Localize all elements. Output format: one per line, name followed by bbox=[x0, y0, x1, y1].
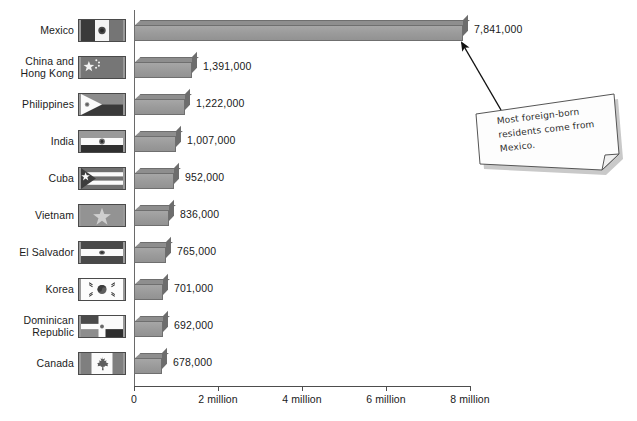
bar-side-face bbox=[185, 89, 190, 110]
india-flag bbox=[78, 130, 126, 153]
x-axis-tick-label: 2 million bbox=[198, 393, 237, 405]
bar-row: China and Hong Kong1,391,000 bbox=[0, 49, 637, 85]
bar bbox=[134, 168, 174, 189]
x-axis-tick-label: 6 million bbox=[366, 393, 405, 405]
philippines-flag bbox=[78, 93, 126, 116]
bar-front-face bbox=[134, 358, 162, 374]
bar-value-label: 836,000 bbox=[180, 208, 219, 220]
korea-flag bbox=[78, 278, 126, 301]
bar bbox=[134, 20, 463, 41]
bar-value-label: 765,000 bbox=[177, 245, 216, 257]
x-axis-tick bbox=[134, 386, 135, 391]
bar-value-label: 701,000 bbox=[174, 282, 213, 294]
bar-row: El Salvador765,000 bbox=[0, 234, 637, 270]
x-axis-tick bbox=[386, 386, 387, 391]
bar-value-label: 7,841,000 bbox=[474, 23, 523, 35]
bar bbox=[134, 316, 163, 337]
bar bbox=[134, 94, 185, 115]
category-label: Mexico bbox=[0, 12, 74, 48]
bar-side-face bbox=[169, 200, 174, 221]
category-label: Canada bbox=[0, 345, 74, 381]
vietnam-flag bbox=[78, 204, 126, 227]
x-axis-tick-label: 0 bbox=[131, 393, 137, 405]
el-salvador-flag bbox=[78, 241, 126, 264]
bar-row: Mexico7,841,000 bbox=[0, 12, 637, 48]
bar-front-face bbox=[134, 173, 174, 189]
bar-front-face bbox=[134, 247, 166, 263]
chart-canvas: Mexico7,841,000China and Hong Kong1,391,… bbox=[0, 0, 637, 421]
bar-side-face bbox=[162, 348, 167, 369]
x-axis-tick bbox=[218, 386, 219, 391]
bar-value-label: 1,391,000 bbox=[203, 60, 252, 72]
category-label: China and Hong Kong bbox=[0, 49, 74, 85]
category-label: El Salvador bbox=[0, 234, 74, 270]
dominican-republic-flag bbox=[78, 315, 126, 338]
bar-value-label: 1,222,000 bbox=[196, 97, 245, 109]
bar-row: Canada678,000 bbox=[0, 345, 637, 381]
bar-value-label: 692,000 bbox=[174, 319, 213, 331]
category-label: India bbox=[0, 123, 74, 159]
bar bbox=[134, 131, 176, 152]
callout-note: Most foreign-born residents come from Me… bbox=[474, 92, 621, 176]
bar-front-face bbox=[134, 284, 163, 300]
bar-row: Korea701,000 bbox=[0, 271, 637, 307]
bar-value-label: 678,000 bbox=[173, 356, 212, 368]
bar-row: Vietnam836,000 bbox=[0, 197, 637, 233]
bar-front-face bbox=[134, 25, 463, 41]
bar bbox=[134, 353, 162, 374]
bar bbox=[134, 279, 163, 300]
bar-front-face bbox=[134, 99, 185, 115]
bar-front-face bbox=[134, 321, 163, 337]
bar-value-label: 1,007,000 bbox=[187, 134, 236, 146]
bar bbox=[134, 205, 169, 226]
bar-side-face bbox=[163, 311, 168, 332]
cuba-flag bbox=[78, 167, 126, 190]
bar-front-face bbox=[134, 136, 176, 152]
category-label: Philippines bbox=[0, 86, 74, 122]
bar-side-face bbox=[166, 237, 171, 258]
canada-flag bbox=[78, 352, 126, 375]
category-label: Vietnam bbox=[0, 197, 74, 233]
bar-row: Dominican Republic692,000 bbox=[0, 308, 637, 344]
bar-front-face bbox=[134, 210, 169, 226]
bar-side-face bbox=[463, 15, 468, 36]
x-axis-tick-label: 8 million bbox=[450, 393, 489, 405]
bar bbox=[134, 57, 192, 78]
bar-front-face bbox=[134, 62, 192, 78]
bar-side-face bbox=[174, 163, 179, 184]
mexico-flag bbox=[78, 19, 126, 42]
category-label: Dominican Republic bbox=[0, 308, 74, 344]
x-axis-tick-label: 4 million bbox=[282, 393, 321, 405]
bar-side-face bbox=[176, 126, 181, 147]
bar bbox=[134, 242, 166, 263]
category-label: Korea bbox=[0, 271, 74, 307]
china-flag bbox=[78, 56, 126, 79]
x-axis-tick bbox=[302, 386, 303, 391]
bar-side-face bbox=[163, 274, 168, 295]
category-label: Cuba bbox=[0, 160, 74, 196]
bar-side-face bbox=[192, 52, 197, 73]
x-axis-tick bbox=[470, 386, 471, 391]
bar-value-label: 952,000 bbox=[185, 171, 224, 183]
